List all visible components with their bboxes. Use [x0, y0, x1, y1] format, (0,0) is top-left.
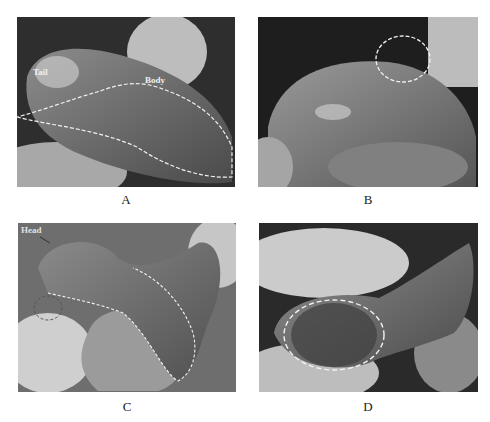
caption-b: B — [348, 192, 388, 208]
panel-d-photo — [259, 223, 478, 392]
caption-c: C — [107, 399, 147, 415]
label-tail: Tail — [33, 67, 48, 77]
panel-c-photo: Head — [18, 223, 236, 392]
pancreas-tail-body-image: Tail Body — [17, 17, 235, 187]
caption-d: D — [348, 399, 388, 415]
label-head: Head — [21, 225, 42, 235]
pancreas-vessel-image — [258, 17, 478, 187]
pancreas-lesion-image — [259, 223, 478, 392]
pancreas-head-image: Head — [18, 223, 236, 392]
label-body: Body — [145, 75, 166, 85]
caption-a: A — [106, 192, 146, 208]
panel-b-photo — [258, 17, 478, 187]
panel-a-photo: Tail Body — [17, 17, 235, 187]
